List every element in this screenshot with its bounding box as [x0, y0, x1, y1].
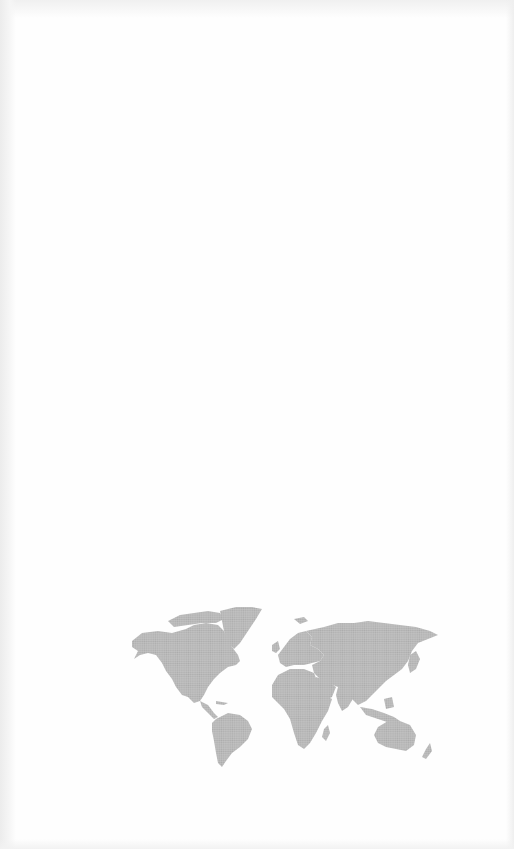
page-right-edge-shadow — [506, 0, 514, 849]
page-bottom-edge-shadow — [0, 839, 514, 849]
page-top-edge-shadow — [0, 0, 514, 18]
world-map-icon — [128, 603, 442, 768]
australia-shape — [374, 721, 416, 751]
page-left-edge-shadow — [0, 0, 16, 849]
scanned-page — [0, 0, 514, 849]
south-america-shape — [212, 713, 252, 767]
north-america-shape — [132, 623, 240, 703]
